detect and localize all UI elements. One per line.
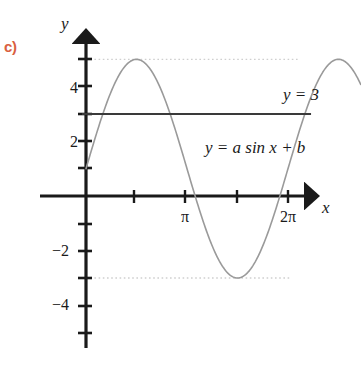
x-tick-label-2pi: 2π bbox=[272, 208, 304, 226]
y-tick-label-2: 2 bbox=[52, 133, 78, 151]
y-tick-label-4: 4 bbox=[52, 79, 78, 97]
y-tick-label-minus-2: −2 bbox=[43, 242, 69, 260]
x-axis-label: x bbox=[322, 198, 330, 218]
sine-curve bbox=[86, 59, 361, 278]
constant-line-equation-label: y = 3 bbox=[283, 85, 319, 105]
sine-graph-figure: c) y x 4 2 −2 −4 π 2π y = 3 y = a sin x … bbox=[0, 0, 361, 374]
part-label: c) bbox=[4, 38, 17, 55]
x-tick-label-pi: π bbox=[174, 208, 196, 226]
y-tick-label-minus-4: −4 bbox=[43, 296, 69, 314]
y-axis-label: y bbox=[61, 14, 69, 34]
graph-canvas bbox=[0, 0, 361, 374]
sine-curve-equation-label: y = a sin x + b bbox=[205, 138, 305, 158]
